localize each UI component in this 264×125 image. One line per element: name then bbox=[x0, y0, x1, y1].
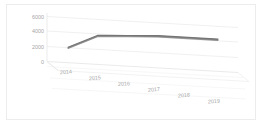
x-tick-2018: 2018 bbox=[178, 92, 190, 99]
y-tick-6000: 6000 bbox=[32, 14, 44, 20]
x-tick-2014: 2014 bbox=[60, 68, 72, 75]
y-tick-2000: 2000 bbox=[32, 44, 44, 50]
x-tick-2015: 2015 bbox=[89, 74, 101, 81]
x-tick-2016: 2016 bbox=[118, 80, 130, 87]
line-chart-3d[interactable]: 6000 4000 2000 0 2014 2015 2016 2017 201… bbox=[0, 0, 264, 125]
x-tick-2019: 2019 bbox=[208, 98, 220, 105]
chart-screenshot: 6000 4000 2000 0 2014 2015 2016 2017 201… bbox=[0, 0, 264, 125]
x-tick-2017: 2017 bbox=[148, 86, 160, 93]
y-tick-4000: 4000 bbox=[32, 28, 44, 34]
y-tick-0: 0 bbox=[41, 59, 44, 65]
y-axis-tick-labels: 6000 4000 2000 0 bbox=[32, 14, 44, 65]
